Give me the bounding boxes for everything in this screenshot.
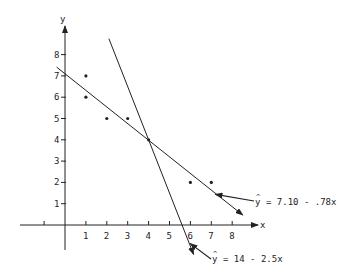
x-tick-label: 2 xyxy=(104,231,109,241)
data-point xyxy=(84,96,87,99)
data-points xyxy=(84,74,213,184)
line2-pointer-arrow xyxy=(190,244,211,259)
y-tick-label: 3 xyxy=(54,156,59,166)
y-tick-label: 6 xyxy=(54,92,59,102)
y-tick-label: 4 xyxy=(54,135,59,145)
alternative-line xyxy=(109,39,194,255)
y-tick-label: 7 xyxy=(54,71,59,81)
x-tick-label: 7 xyxy=(208,231,213,241)
x-tick-label: 8 xyxy=(229,231,234,241)
y-tick-label: 1 xyxy=(54,199,59,209)
line1-equation: = 7.10 - .78x xyxy=(266,197,337,207)
data-point xyxy=(147,138,150,141)
line2-equation: = 14 - 2.5x xyxy=(223,254,283,264)
x-tick-label: 3 xyxy=(125,231,130,241)
y-tick-label: 5 xyxy=(54,114,59,124)
data-point xyxy=(84,74,87,77)
line2-label: y ^ = 14 - 2.5x xyxy=(212,250,283,264)
data-point xyxy=(105,117,108,120)
least-squares-line xyxy=(57,67,243,215)
regression-lines xyxy=(57,39,243,255)
x-tick-label: 4 xyxy=(146,231,151,241)
x-axis-label: x xyxy=(260,220,266,230)
line1-label: y ^ = 7.10 - .78x xyxy=(255,193,337,207)
data-point xyxy=(126,117,129,120)
y-axis-label: y xyxy=(60,14,66,24)
y-tick-label: 8 xyxy=(54,50,59,60)
data-point xyxy=(210,181,213,184)
line2-hat-icon: ^ xyxy=(213,250,217,258)
data-point xyxy=(189,181,192,184)
axis-ticks: 1234567812345678 xyxy=(44,50,235,241)
scatter-chart: 1234567812345678 y x y ^ = 7.10 - .78x y… xyxy=(0,0,346,280)
line1-hat-icon: ^ xyxy=(256,193,260,201)
x-tick-label: 5 xyxy=(167,231,172,241)
annotations: y x y ^ = 7.10 - .78x y ^ = 14 - 2.5x xyxy=(60,14,337,264)
y-tick-label: 2 xyxy=(54,177,59,187)
x-tick-label: 1 xyxy=(83,231,88,241)
